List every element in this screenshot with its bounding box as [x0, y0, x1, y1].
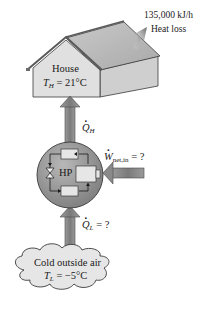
q-low-value: = ? [94, 219, 110, 230]
cold-source-label: Cold outside air [34, 258, 101, 269]
house-label: House [52, 64, 79, 75]
compressor-box [76, 166, 96, 182]
evaporator-box [61, 186, 78, 196]
work-input-arrow [103, 162, 144, 184]
house-temp-value: = 21°C [54, 77, 87, 88]
work-input-value: = ? [129, 151, 145, 162]
heat-pump-label: HP [59, 168, 72, 179]
house-eave-end [26, 68, 30, 71]
q-high-sub: H [90, 127, 95, 135]
q-high-label: QH [82, 123, 95, 135]
q-high-arrow [60, 96, 80, 144]
house-temp: TH = 21°C [43, 78, 87, 90]
heat-loss-value: 135,000 kJ/h [144, 11, 193, 21]
work-input-sub: net,in [113, 156, 129, 164]
cold-source-temp-value: = −5°C [54, 270, 88, 281]
q-low-label: QL = ? [82, 220, 109, 232]
q-high-symbol: Q [82, 123, 90, 134]
cold-source-temp: TL = −5°C [44, 271, 87, 283]
work-input-symbol: W [104, 152, 113, 163]
work-input-label: Wnet,in = ? [104, 152, 144, 164]
heat-loss-label: Heat loss [151, 25, 186, 35]
q-low-symbol: Q [82, 220, 90, 231]
